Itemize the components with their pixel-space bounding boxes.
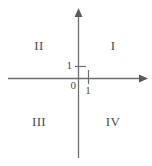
quadrant-label-iii: III bbox=[26, 115, 52, 128]
y-axis-tick-label-1: 1 bbox=[62, 60, 72, 71]
quadrant-label-i: I bbox=[102, 39, 124, 52]
coordinate-plane-figure: I II III IV 1 1 0 bbox=[0, 0, 152, 166]
quadrant-label-iv: IV bbox=[101, 115, 125, 128]
x-axis-tick-label-1: 1 bbox=[83, 85, 93, 96]
quadrant-label-ii: II bbox=[28, 39, 50, 52]
axes-svg bbox=[0, 0, 152, 166]
origin-label: 0 bbox=[66, 80, 76, 91]
x-axis-arrowhead bbox=[139, 75, 148, 83]
y-axis-arrowhead bbox=[75, 8, 83, 17]
